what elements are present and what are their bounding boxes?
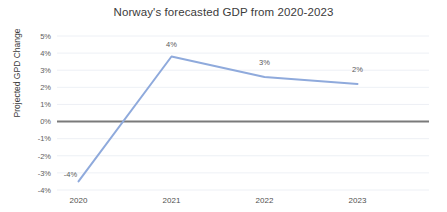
chart-plot-area: 5%4%3%2%1%0%-1%-2%-3%-4% 202020212022202… — [0, 0, 447, 212]
y-tick-label: 3% — [40, 66, 51, 75]
y-tick-label: 2% — [40, 83, 51, 92]
y-tick-label: -3% — [38, 169, 52, 178]
data-label-2023: 2% — [352, 65, 363, 74]
x-tick-label-2020: 2020 — [70, 196, 88, 205]
data-label-2022: 3% — [259, 58, 270, 67]
y-tick-label: 4% — [40, 49, 51, 58]
data-label-2021: 4% — [166, 40, 177, 49]
y-tick-label: 0% — [40, 117, 51, 126]
x-tick-label-2022: 2022 — [256, 196, 274, 205]
y-tick-label: -2% — [38, 152, 52, 161]
x-axis-tick-labels: 2020202120222023 — [70, 196, 367, 205]
chart-container: Norway's forecasted GDP from 2020-2023 P… — [0, 0, 447, 212]
data-series-gdp — [79, 57, 358, 182]
y-tick-label: -1% — [38, 134, 52, 143]
y-axis-tick-labels: 5%4%3%2%1%0%-1%-2%-3%-4% — [38, 32, 52, 195]
y-tick-label: 1% — [40, 100, 51, 109]
x-tick-label-2021: 2021 — [163, 196, 181, 205]
data-point-labels: -4%4%3%2% — [64, 40, 363, 180]
y-tick-label: 5% — [40, 32, 51, 41]
gridlines — [57, 36, 429, 190]
data-label-2020: -4% — [64, 170, 78, 179]
y-tick-label: -4% — [38, 186, 52, 195]
series-line-gdp — [79, 57, 358, 182]
x-tick-label-2023: 2023 — [349, 196, 367, 205]
